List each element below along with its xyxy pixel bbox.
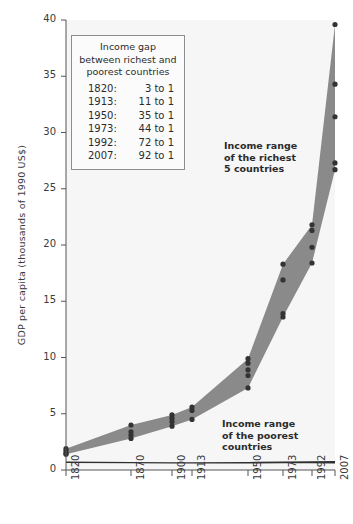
legend-title-line-3: poorest countries: [78, 66, 178, 79]
y-tick-label-40: 40: [26, 13, 56, 24]
poorest-range-annotation: Income range of the poorest countries: [222, 418, 298, 453]
legend-title: Income gap between richest and poorest c…: [78, 41, 178, 79]
legend-row-ratio: 11 to 1: [139, 95, 174, 109]
income-gap-legend: Income gap between richest and poorest c…: [71, 35, 185, 170]
x-tick-label-1973: 1973: [287, 455, 298, 480]
legend-row: 1820:3 to 1: [78, 82, 178, 96]
y-axis-tick-marks: [61, 20, 66, 470]
x-tick-label-1900: 1900: [176, 455, 187, 480]
y-tick-label-0: 0: [26, 463, 56, 474]
legend-row: 1992:72 to 1: [78, 136, 178, 150]
legend-row-ratio: 44 to 1: [139, 122, 174, 136]
legend-row-year: 1913:: [88, 95, 117, 109]
y-tick-label-30: 30: [26, 126, 56, 137]
legend-row: 1973:44 to 1: [78, 122, 178, 136]
x-tick-label-1950: 1950: [252, 455, 263, 480]
y-tick-label-25: 25: [26, 182, 56, 193]
legend-row-ratio: 35 to 1: [139, 109, 174, 123]
legend-row-year: 1992:: [88, 136, 117, 150]
legend-row-year: 1950:: [88, 109, 117, 123]
legend-row-ratio: 72 to 1: [139, 136, 174, 150]
legend-row-year: 2007:: [88, 149, 117, 163]
legend-title-line-2: between richest and: [78, 54, 178, 67]
legend-row-ratio: 92 to 1: [139, 149, 174, 163]
x-tick-label-1913: 1913: [196, 455, 207, 480]
x-tick-label-2007: 2007: [339, 455, 350, 480]
legend-row: 2007:92 to 1: [78, 149, 178, 163]
legend-row: 1950:35 to 1: [78, 109, 178, 123]
legend-rows: 1820:3 to 11913:11 to 11950:35 to 11973:…: [78, 82, 178, 163]
y-tick-label-15: 15: [26, 294, 56, 305]
legend-row-year: 1973:: [88, 122, 117, 136]
legend-title-line-1: Income gap: [78, 41, 178, 54]
legend-row-year: 1820:: [88, 82, 117, 96]
y-tick-label-5: 5: [26, 407, 56, 418]
y-tick-label-20: 20: [26, 238, 56, 249]
x-tick-label-1870: 1870: [135, 455, 146, 480]
legend-row: 1913:11 to 1: [78, 95, 178, 109]
richest-range-annotation: Income range of the richest 5 countries: [224, 140, 297, 175]
legend-row-ratio: 3 to 1: [145, 82, 174, 96]
x-tick-label-1992: 1992: [316, 455, 327, 480]
chart-container: GDP per capita (thousands of 1990 US$) 0…: [0, 0, 353, 524]
x-tick-label-1820: 1820: [70, 455, 81, 480]
y-tick-label-10: 10: [26, 351, 56, 362]
y-tick-label-35: 35: [26, 69, 56, 80]
